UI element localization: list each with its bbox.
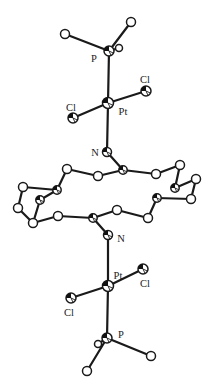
- label-p-bottom: P: [118, 329, 124, 340]
- atom-T1: [63, 165, 72, 174]
- atom-shade-PBot: [102, 333, 107, 338]
- label-cl-bottom-left: Cl: [64, 307, 74, 318]
- atom-R1: [192, 175, 201, 184]
- atom-B2: [113, 206, 122, 215]
- label-p-top: P: [91, 53, 97, 64]
- atom-R3: [187, 195, 196, 204]
- atom-Cc: [116, 45, 123, 52]
- atom-T2: [94, 172, 103, 181]
- atom-Ca: [61, 30, 70, 39]
- atom-shade-NTop: [103, 148, 108, 153]
- atom-shade-ClBL: [66, 293, 71, 298]
- atom-L2: [14, 204, 23, 213]
- molecular-structure-diagram: PClClPtNNPtClClP: [0, 0, 214, 390]
- crystal-structure-figure: PClClPtNNPtClClP: [0, 0, 214, 390]
- atom-shade-S1: [53, 186, 57, 190]
- label-n-top: N: [91, 147, 99, 158]
- atom-shade-ClBR: [138, 264, 143, 269]
- atom-T4: [152, 170, 161, 179]
- atom-Cd: [95, 341, 102, 348]
- bond-PTop-Ca: [65, 34, 109, 51]
- atom-shade-ClTL: [68, 113, 73, 118]
- atom-shade-PtBot: [103, 281, 109, 287]
- atom-shade-PtTop: [103, 98, 109, 104]
- atom-shade-R2: [171, 184, 175, 188]
- atom-shade-R4: [153, 194, 157, 198]
- bond-B3-B4: [58, 216, 93, 218]
- label-n-bottom: N: [117, 233, 125, 244]
- bond-PtTop-NTop: [107, 103, 108, 152]
- atom-T5: [176, 161, 185, 170]
- atom-shade-ClTR: [141, 86, 146, 91]
- label-cl-bottom-right: Cl: [140, 278, 150, 289]
- atom-L1: [19, 183, 28, 192]
- bond-PtBot-PBot: [107, 286, 108, 338]
- label-pt-bottom: Pt: [114, 270, 123, 281]
- atom-shade-S2: [36, 196, 40, 200]
- atom-O1: [29, 219, 38, 228]
- bond-PTop-PtTop: [108, 51, 109, 103]
- atom-shade-B3: [89, 214, 93, 218]
- label-pt-top: Pt: [119, 106, 128, 117]
- atom-B4: [54, 212, 63, 221]
- atom-Ce: [83, 367, 92, 376]
- atom-Cb: [127, 18, 136, 27]
- label-cl-top-right: Cl: [140, 74, 150, 85]
- bond-PBot-Cf: [107, 338, 151, 356]
- atom-B1: [144, 214, 153, 223]
- atom-shade-PTop: [104, 46, 109, 51]
- atom-Cf: [147, 352, 156, 361]
- label-cl-top-left: Cl: [66, 102, 76, 113]
